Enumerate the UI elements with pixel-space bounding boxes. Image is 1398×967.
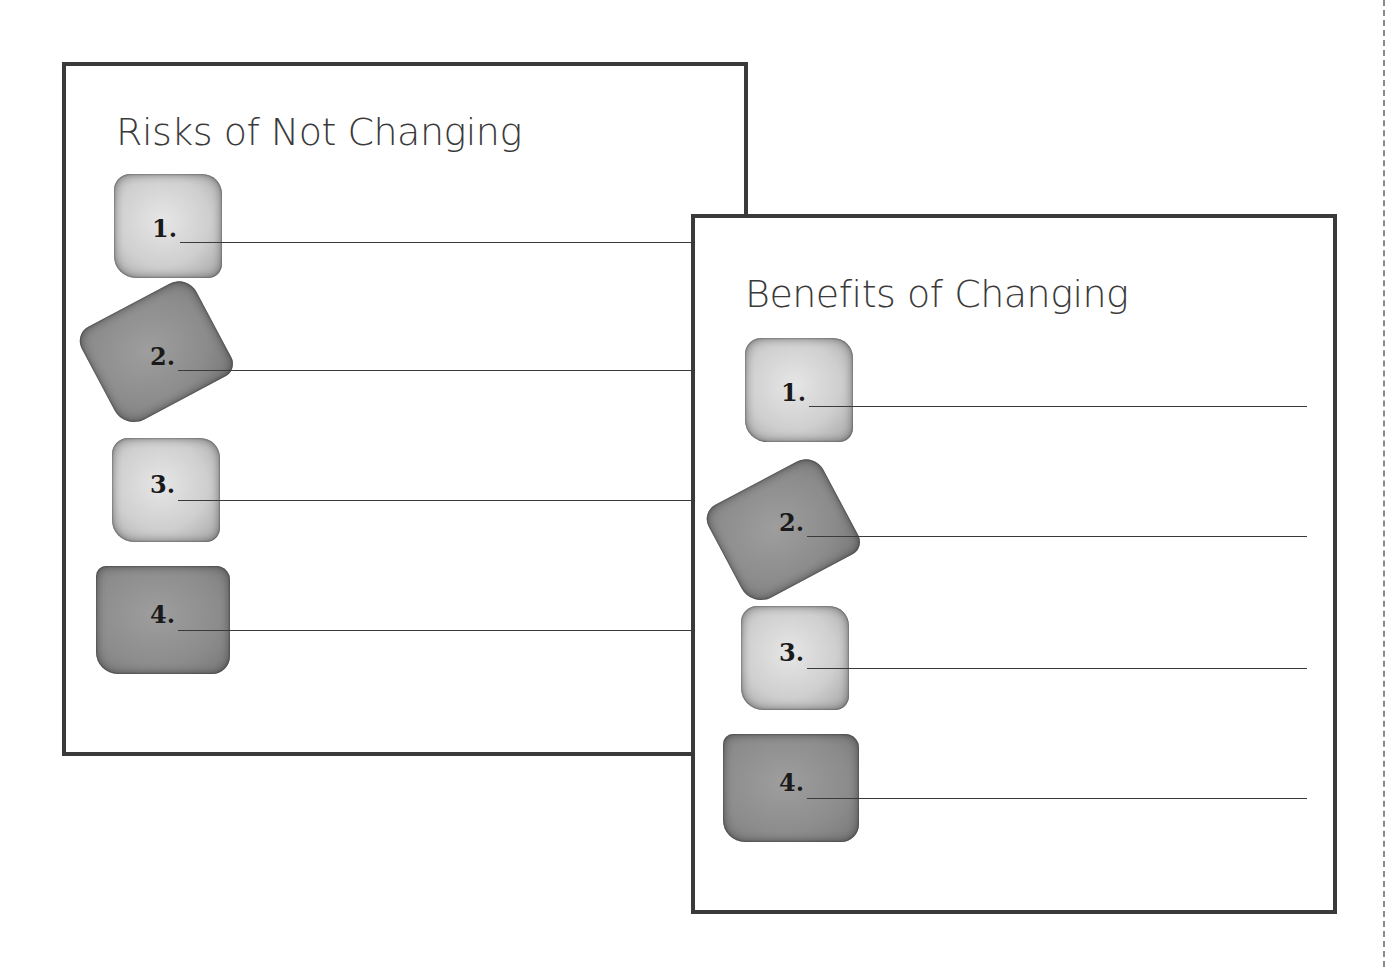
risk-item-number: 3.: [150, 470, 175, 499]
benefit-item-number: 2.: [779, 508, 804, 537]
benefits-card-title: Benefits of Changing: [745, 272, 1128, 316]
benefit-item-2: 2.: [695, 462, 1333, 602]
benefit-answer-line-3[interactable]: [807, 668, 1307, 669]
benefit-answer-line-2[interactable]: [807, 536, 1307, 537]
benefit-answer-line-1[interactable]: [809, 406, 1307, 407]
risk-item-2: 2.: [66, 296, 744, 436]
risk-answer-line-3[interactable]: [178, 500, 700, 501]
risk-answer-line-2[interactable]: [178, 370, 700, 371]
benefits-of-changing-card: Benefits of Changing 1. 2. 3. 4.: [691, 214, 1337, 914]
benefit-item-3: 3.: [695, 604, 1333, 744]
risk-item-4: 4.: [66, 564, 744, 704]
risk-item-number: 2.: [150, 342, 175, 371]
risks-card-title: Risks of Not Changing: [116, 110, 522, 154]
benefit-item-number: 1.: [781, 378, 806, 407]
benefit-item-4: 4.: [695, 732, 1333, 872]
benefit-item-number: 3.: [779, 638, 804, 667]
risk-answer-line-4[interactable]: [178, 630, 700, 631]
benefit-item-1: 1.: [695, 334, 1333, 474]
dashed-cut-line: [1383, 0, 1385, 967]
risk-answer-line-1[interactable]: [180, 242, 700, 243]
risks-of-not-changing-card: Risks of Not Changing 1. 2. 3. 4.: [62, 62, 748, 756]
risk-item-3: 3.: [66, 436, 744, 576]
benefit-item-number: 4.: [779, 768, 804, 797]
risk-item-number: 4.: [150, 600, 175, 629]
risk-item-number: 1.: [152, 214, 177, 243]
benefit-answer-line-4[interactable]: [807, 798, 1307, 799]
